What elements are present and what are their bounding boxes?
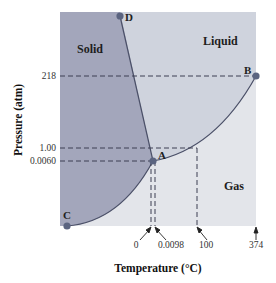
point-b-label: B [244, 64, 252, 76]
point-c-marker [63, 222, 70, 229]
x-tick-0: 0 [134, 240, 139, 250]
y-axis-label: Pressure (atm) [12, 84, 25, 156]
x-tick-374: 374 [249, 240, 264, 250]
arrow-100-head-icon [197, 227, 202, 233]
gas-label: Gas [224, 179, 244, 193]
y-tick-0060: 0.0060 [30, 156, 56, 166]
phase-diagram: D B A C Solid Liquid Gas 218 1.00 0.0060… [0, 0, 276, 283]
arrow-374-head-icon [254, 227, 258, 233]
x-axis-label: Temperature (°C) [114, 262, 201, 275]
solid-label: Solid [77, 42, 103, 56]
point-d-label: D [125, 11, 133, 23]
point-a-marker [149, 157, 156, 164]
x-tick-100: 100 [199, 240, 214, 250]
y-tick-1: 1.00 [39, 143, 56, 153]
x-tick-00098: 0.0098 [158, 240, 184, 250]
point-b-marker [252, 72, 259, 79]
y-tick-218: 218 [42, 71, 57, 81]
liquid-label: Liquid [203, 34, 238, 48]
point-a-label: A [158, 149, 166, 161]
tick-arrows [140, 227, 258, 240]
point-c-label: C [63, 209, 71, 221]
point-d-marker [116, 12, 123, 19]
